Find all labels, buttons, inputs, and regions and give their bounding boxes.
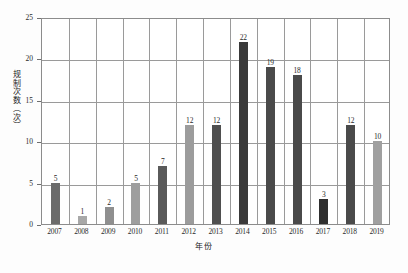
x-tick-label-2016: 2016 (283, 228, 310, 236)
bar-rect (319, 199, 328, 224)
x-tick-label-2014: 2014 (229, 228, 256, 236)
bar-value-label: 5 (45, 175, 65, 183)
bar-value-label: 2 (99, 199, 119, 207)
y-tick-label: 20 (26, 55, 34, 63)
bar-rect (131, 183, 140, 224)
bar-2009 (105, 17, 114, 224)
bar-2011 (158, 17, 167, 224)
x-tick-label-2018: 2018 (336, 228, 363, 236)
bar-rect (293, 75, 302, 224)
bar-rect (266, 67, 275, 224)
y-tick-label: 10 (26, 138, 34, 146)
x-tick-label-2013: 2013 (202, 228, 229, 236)
bar-rect (212, 125, 221, 224)
bar-2014 (239, 17, 248, 224)
bar-rect (185, 125, 194, 224)
bar-value-label: 19 (260, 59, 280, 67)
plot-area: 51257121222191831210 (41, 18, 390, 225)
y-tick-label: 5 (29, 180, 33, 188)
x-tick-label-2009: 2009 (95, 228, 122, 236)
bar-rect (239, 42, 248, 224)
bar-2008 (78, 17, 87, 224)
y-tick-label: 25 (26, 14, 34, 22)
bar-value-label: 3 (314, 191, 334, 199)
bar-value-label: 22 (233, 34, 253, 42)
y-tick-label: 0 (29, 221, 33, 229)
bar-rect (105, 207, 114, 224)
y-tick-label: 15 (26, 97, 34, 105)
bar-2007 (51, 17, 60, 224)
bar-value-label: 5 (126, 175, 146, 183)
bar-value-label: 12 (207, 117, 227, 125)
bar-value-label: 12 (341, 117, 361, 125)
x-tick-label-2011: 2011 (148, 228, 175, 236)
bar-value-label: 7 (153, 158, 173, 166)
bar-2019 (373, 17, 382, 224)
x-tick-label-2007: 2007 (41, 228, 68, 236)
x-tick-label-2012: 2012 (175, 228, 202, 236)
x-tick-label-2019: 2019 (363, 228, 390, 236)
x-tick-label-2010: 2010 (122, 228, 149, 236)
bar-series: 51257121222191831210 (42, 19, 389, 224)
x-tick-label-2015: 2015 (256, 228, 283, 236)
bar-rect (78, 216, 87, 224)
bar-rect (346, 125, 355, 224)
x-tick-label-2017: 2017 (309, 228, 336, 236)
bar-rect (51, 183, 60, 224)
bar-rect (158, 166, 167, 224)
bar-value-label: 12 (180, 117, 200, 125)
x-tick-label-2008: 2008 (68, 228, 95, 236)
bar-value-label: 1 (72, 208, 92, 216)
bar-2016 (293, 17, 302, 224)
bar-2015 (266, 17, 275, 224)
y-axis-title: 规制次数（次） (6, 70, 19, 130)
bar-value-label: 18 (287, 67, 307, 75)
x-axis-title: 年份 (0, 243, 408, 251)
bar-rect (373, 141, 382, 224)
bar-value-label: 10 (368, 133, 388, 141)
bar-chart-figure: 0510152025 规制次数（次） 51257121222191831210 … (0, 0, 408, 273)
bar-2010 (131, 17, 140, 224)
